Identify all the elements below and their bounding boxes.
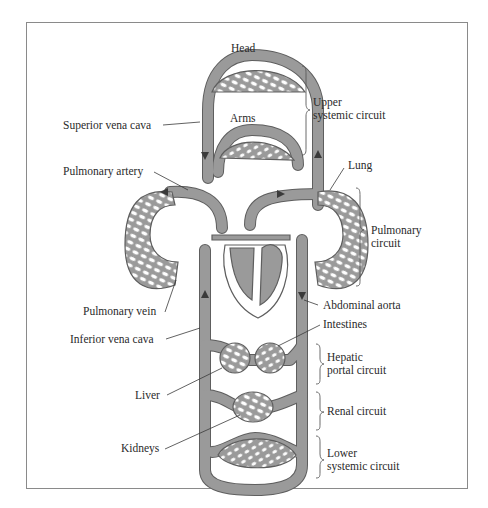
label-pulmonary-circuit: Pulmonary circuit (371, 224, 421, 250)
head-capillary-bed (212, 71, 305, 92)
label-abdominal-aorta: Abdominal aorta (323, 299, 401, 312)
label-kidneys: Kidneys (121, 442, 159, 455)
liver-capillary-bed (220, 343, 250, 373)
label-renal-circuit: Renal circuit (327, 405, 386, 418)
circuit-label-line1: Hepatic (327, 351, 386, 364)
label-lower-systemic-circuit: Lower systemic circuit (327, 447, 400, 473)
label-hepatic-portal-circuit: Hepatic portal circuit (327, 351, 386, 377)
circuit-label-line2: systemic circuit (327, 460, 400, 473)
intestines-capillary-bed (255, 343, 285, 373)
label-intestines: Intestines (323, 318, 367, 331)
circuit-label-line1: Pulmonary (371, 224, 421, 237)
label-liver: Liver (135, 389, 160, 402)
circuit-label-line2: portal circuit (327, 364, 386, 377)
label-inferior-vena-cava: Inferior vena cava (70, 333, 154, 346)
label-arms: Arms (230, 112, 256, 125)
circuit-label-line1: Renal circuit (327, 405, 386, 418)
left-lung (125, 191, 178, 288)
label-superior-vena-cava: Superior vena cava (63, 119, 151, 132)
label-lung: Lung (348, 159, 372, 172)
label-upper-systemic-circuit: Upper systemic circuit (313, 96, 386, 122)
circuit-label-line2: systemic circuit (313, 109, 386, 122)
kidneys-capillary-bed (233, 392, 273, 422)
circuit-label-line2: circuit (371, 237, 421, 250)
label-pulmonary-vein: Pulmonary vein (83, 305, 156, 318)
circulatory-diagram (0, 0, 488, 508)
circuit-label-line1: Upper (313, 96, 386, 109)
label-head: Head (231, 42, 255, 55)
circuit-label-line1: Lower (327, 447, 400, 460)
heart (212, 235, 290, 318)
label-pulmonary-artery: Pulmonary artery (63, 165, 143, 178)
